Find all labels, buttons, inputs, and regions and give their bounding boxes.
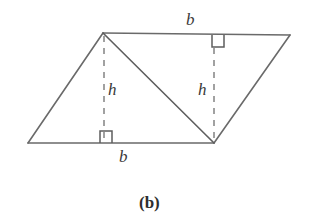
geometry-canvas: [0, 0, 309, 221]
right-angle-marker-bottom: [100, 131, 112, 143]
label-base-top: b: [186, 11, 195, 28]
label-height-right: h: [198, 81, 207, 98]
label-base-bottom: b: [119, 148, 128, 165]
geometry-figure: b b h h (b): [0, 0, 309, 221]
right-angle-marker-top: [212, 35, 224, 47]
label-height-left: h: [108, 81, 117, 98]
figure-caption: (b): [139, 194, 160, 211]
edge-left-slant: [28, 33, 103, 143]
edge-top: [103, 33, 290, 35]
edge-right-slant: [214, 35, 290, 143]
